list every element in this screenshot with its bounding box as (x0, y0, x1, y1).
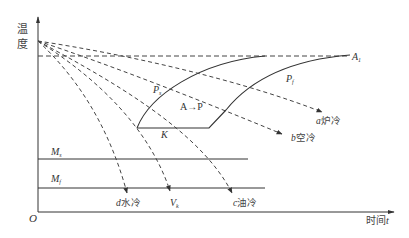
cct-diagram: 温 度 O 时间t A1 Ms Mf Ps K Pf A→P a炉冷 b空冷 (0, 0, 409, 238)
cooling-label-a: a炉冷 (316, 115, 341, 126)
ms-label: Ms (50, 146, 62, 158)
origin-label: O (29, 212, 37, 224)
cooling-label-b: b空冷 (291, 132, 316, 143)
y-axis-label-2: 度 (17, 37, 28, 51)
y-axis-label-1: 温 (17, 23, 28, 36)
cooling-curve-b (38, 41, 282, 134)
k-label: K (160, 129, 169, 140)
a1-label: A1 (351, 51, 361, 63)
cooling-curve-d (38, 41, 127, 193)
mf-label: Mf (50, 173, 62, 185)
x-axis-label: 时间t (366, 214, 389, 226)
cooling-curve-vk (38, 41, 170, 191)
cooling-curve-c (38, 41, 232, 193)
ps-label: Ps (152, 84, 162, 96)
k-line (137, 110, 226, 128)
cooling-label-c: c油冷 (233, 197, 257, 208)
pf-label: Pf (285, 73, 295, 85)
cooling-label-d: d水冷 (116, 197, 141, 208)
cooling-label-vk: Vk (170, 197, 179, 209)
transformation-region-label: A→P (180, 101, 203, 112)
